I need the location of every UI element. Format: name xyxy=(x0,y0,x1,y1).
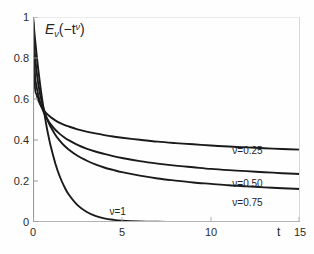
x-tick-label: 10 xyxy=(196,227,226,238)
y-tick-label: 1 xyxy=(3,12,29,23)
y-tick-label: 0.6 xyxy=(3,94,29,105)
plot-background xyxy=(33,17,300,222)
curve-label-2: ν=0.50 xyxy=(232,179,262,189)
x-tick-label: 0 xyxy=(18,227,48,238)
x-tick-label: 15 xyxy=(285,227,314,238)
y-tick-label: 0.2 xyxy=(3,176,29,187)
chart-figure: Eν(−tν) 00.20.40.60.81 051015 ν=0.25ν=0.… xyxy=(0,0,314,254)
plot-title: Eν(−tν) xyxy=(45,22,85,39)
title-arg-close: ) xyxy=(80,21,85,37)
curve-label-3: ν=0.75 xyxy=(232,198,262,208)
y-tick-label: 0.8 xyxy=(3,53,29,64)
y-tick-label: 0.4 xyxy=(3,135,29,146)
title-base: E xyxy=(45,21,54,37)
x-tick-label: 5 xyxy=(107,227,137,238)
curve-label-4: ν=1 xyxy=(110,207,126,217)
x-axis-name: t xyxy=(277,226,280,238)
chart-canvas xyxy=(33,17,300,222)
curve-label-1: ν=0.25 xyxy=(232,146,262,156)
title-arg-open: (−t xyxy=(59,21,76,37)
plot-area xyxy=(33,17,300,222)
